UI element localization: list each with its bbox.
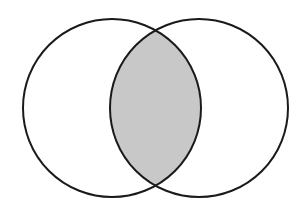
venn-diagram-canvas bbox=[0, 0, 300, 209]
venn-diagram bbox=[0, 0, 300, 209]
